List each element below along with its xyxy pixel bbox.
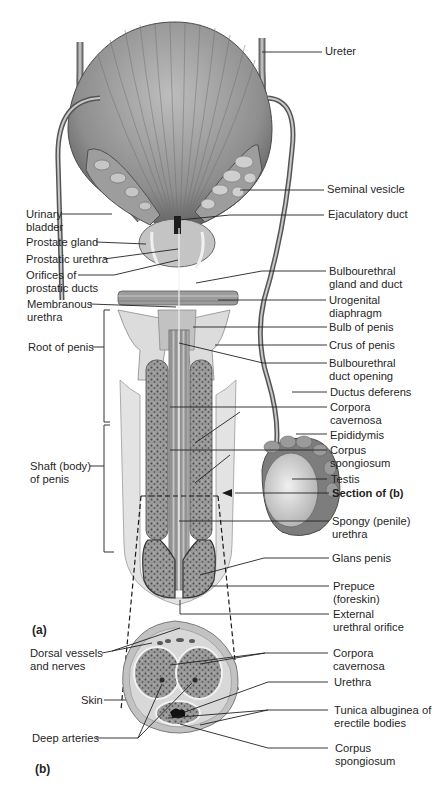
label-bulbourethral-duct-opening: Bulbourethral duct opening (329, 357, 396, 382)
label-bulb-of-penis: Bulb of penis (329, 321, 394, 334)
label-shaft-of-penis: Shaft (body) of penis (30, 460, 91, 485)
label-seminal-vesicle: Seminal vesicle (327, 183, 405, 196)
label-spongy-urethra: Spongy (penile) urethra (332, 515, 410, 540)
label-b-urethra: Urethra (334, 676, 371, 689)
label-ductus-deferens: Ductus deferens (330, 386, 411, 399)
label-bulbourethral-gland: Bulbourethral gland and duct (329, 265, 402, 290)
label-skin: Skin (81, 694, 103, 707)
label-testis: Testis (331, 473, 360, 486)
penis-shaft (120, 228, 236, 605)
urogenital-diaphragm (118, 291, 238, 305)
label-urogenital-diaphragm: Urogenital diaphragm (329, 294, 382, 319)
label-b-corpora-cavernosa: Corpora cavernosa (333, 647, 385, 672)
root-bracket (92, 310, 110, 422)
label-glans-penis: Glans penis (332, 552, 391, 565)
panel-label-b: (b) (35, 762, 50, 776)
label-corpora-cavernosa: Corpora cavernosa (330, 401, 382, 426)
label-ejaculatory-duct: Ejaculatory duct (328, 208, 408, 221)
shaft-bracket (90, 425, 114, 552)
urinary-bladder (68, 22, 272, 232)
label-dorsal-vessels: Dorsal vessels and nerves (30, 647, 103, 672)
label-corpus-spongiosum: Corpus spongiosum (330, 444, 390, 469)
label-urinary-bladder: Urinary bladder (26, 208, 63, 233)
label-prostatic-urethra: Prostatic urethra (26, 253, 108, 266)
label-b-tunica-albuginea: Tunica albuginea of erectile bodies (334, 704, 431, 729)
label-prepuce: Prepuce (foreskin) (333, 580, 380, 605)
label-b-corpus-spongiosum: Corpus spongiosum (335, 742, 395, 767)
cross-section (123, 621, 238, 733)
label-section-of-b: Section of (b) (332, 487, 403, 500)
label-crus-of-penis: Crus of penis (329, 339, 395, 352)
label-deep-arteries: Deep arteries (32, 732, 99, 745)
label-epididymis: Epididymis (330, 429, 384, 442)
label-membranous-urethra: Membranous urethra (27, 298, 92, 323)
panel-label-a: (a) (32, 623, 47, 637)
label-root-of-penis: Root of penis (28, 341, 94, 354)
label-prostate-gland: Prostate gland (26, 236, 98, 249)
label-orifices-prostatic-ducts: Orifices of prostatic ducts (26, 269, 98, 294)
label-external-urethral-orifice: External urethral orifice (333, 608, 404, 633)
label-ureter: Ureter (325, 45, 356, 58)
